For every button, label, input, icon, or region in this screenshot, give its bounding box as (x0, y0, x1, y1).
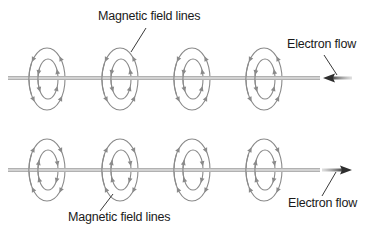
bottom-field-label-leader (100, 194, 113, 211)
top-magnetic-field-lines-label: Magnetic field lines (98, 9, 200, 23)
bottom-flow-label-leader (322, 172, 336, 196)
bottom-electron-flow-arrow-icon (322, 166, 352, 175)
top-flow-label-leader (324, 55, 337, 75)
bottom-wire (8, 168, 320, 172)
top-electron-flow-arrow-icon (323, 74, 352, 83)
top-wire (8, 76, 320, 80)
magnetic-field-diagram: Magnetic field lines Electron flow Magne… (0, 0, 366, 241)
top-electron-flow-label: Electron flow (287, 37, 356, 51)
bottom-electron-flow-label: Electron flow (288, 196, 357, 210)
bottom-magnetic-field-lines-label: Magnetic field lines (68, 210, 170, 224)
top-field-label-leader (131, 28, 146, 52)
